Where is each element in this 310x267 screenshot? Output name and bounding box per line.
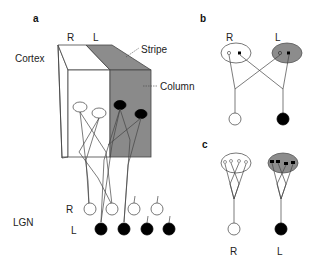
panel-c-right-lgn-cell bbox=[228, 223, 240, 235]
panel-b-eye-right-label: R bbox=[226, 32, 233, 43]
lgn-row-left-label: L bbox=[71, 225, 77, 236]
panel-c-eye-right-label: R bbox=[230, 246, 237, 257]
cortex-left-cell-2 bbox=[135, 110, 147, 119]
panel-c-label: c bbox=[202, 139, 208, 150]
ocular-dominance-diagram: a R L Cortex Stripe Column bbox=[0, 0, 310, 267]
cortex-block bbox=[58, 45, 151, 158]
lgn-row-right-label: R bbox=[66, 204, 73, 215]
lgn-right-row bbox=[84, 196, 163, 215]
lgn-right-cell bbox=[128, 203, 140, 215]
panel-b-eye-left-label: L bbox=[275, 32, 281, 43]
lgn-right-cell bbox=[84, 203, 96, 215]
lgn-right-cell bbox=[106, 203, 118, 215]
lgn-left-row bbox=[95, 216, 175, 235]
panel-b-left-lgn-cell bbox=[277, 113, 289, 125]
panel-b-circuit bbox=[221, 43, 302, 125]
panel-c-eye-left-label: L bbox=[277, 246, 283, 257]
lgn-right-cell bbox=[151, 203, 163, 215]
lgn-left-cell bbox=[95, 223, 107, 235]
column-annotation: Column bbox=[160, 81, 194, 92]
panel-c-left-lgn-cell bbox=[275, 223, 287, 235]
lgn-left-cell bbox=[118, 223, 130, 235]
lgn-label: LGN bbox=[13, 217, 34, 228]
panel-a-eye-right-label: R bbox=[67, 32, 74, 43]
panel-a-eye-left-label: L bbox=[93, 32, 99, 43]
cortex-left-cell-1 bbox=[114, 101, 126, 110]
panel-b-label: b bbox=[200, 13, 206, 24]
lgn-left-cell bbox=[141, 223, 153, 235]
cortex-label: Cortex bbox=[15, 53, 44, 64]
panel-c-circuit bbox=[221, 153, 298, 235]
stripe-annotation: Stripe bbox=[141, 44, 168, 55]
panel-b-right-lgn-cell bbox=[229, 113, 241, 125]
lgn-left-cell bbox=[163, 223, 175, 235]
cortex-right-cell-1 bbox=[73, 102, 87, 112]
panel-a-label: a bbox=[33, 13, 39, 24]
cortex-right-cell-2 bbox=[92, 108, 106, 118]
